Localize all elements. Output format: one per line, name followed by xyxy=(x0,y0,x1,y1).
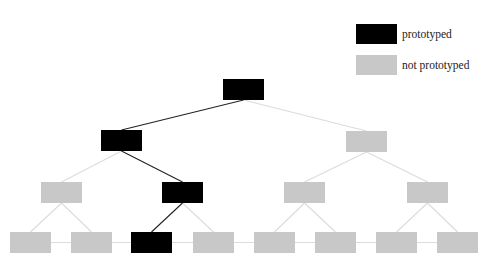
tree-edge xyxy=(183,203,214,232)
legend-item-not-prototyped: not prototyped xyxy=(356,55,469,75)
tree-edge xyxy=(244,100,367,131)
tree-node-prototyped xyxy=(131,232,172,253)
tree-edge xyxy=(428,203,458,232)
legend-label-not-prototyped: not prototyped xyxy=(402,59,469,71)
tree-node-not-prototyped xyxy=(376,232,417,253)
tree-edge xyxy=(31,203,62,232)
tree-node-not-prototyped xyxy=(315,232,356,253)
tree-edge xyxy=(305,203,336,232)
tree-nodes xyxy=(10,79,478,253)
tree-node-prototyped xyxy=(223,79,264,100)
tree-node-not-prototyped xyxy=(284,182,325,203)
tree-node-not-prototyped xyxy=(41,182,82,203)
tree-node-not-prototyped xyxy=(10,232,51,253)
legend-label-prototyped: prototyped xyxy=(402,28,452,40)
tree-edge xyxy=(367,152,428,182)
tree-edge xyxy=(152,203,183,232)
tree-node-prototyped xyxy=(162,182,203,203)
tree-node-not-prototyped xyxy=(71,232,112,253)
tree-node-prototyped xyxy=(101,130,142,151)
tree-node-not-prototyped xyxy=(437,232,478,253)
tree-node-not-prototyped xyxy=(346,131,387,152)
tree-edge xyxy=(275,203,305,232)
tree-edge xyxy=(62,151,122,182)
tree-node-not-prototyped xyxy=(407,182,448,203)
tree-edge xyxy=(397,203,428,232)
legend-swatch-not-prototyped xyxy=(356,55,397,75)
tree-edges xyxy=(31,100,458,232)
tree-edge xyxy=(62,203,92,232)
tree-edge xyxy=(122,151,183,182)
tree-edge xyxy=(305,152,367,182)
tree-edge xyxy=(122,100,244,130)
legend-swatch-prototyped xyxy=(356,24,397,44)
tree-node-not-prototyped xyxy=(254,232,295,253)
tree-node-not-prototyped xyxy=(193,232,234,253)
legend-item-prototyped: prototyped xyxy=(356,24,452,44)
